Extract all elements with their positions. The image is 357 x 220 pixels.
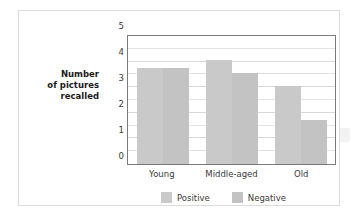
legend-item[interactable]: Positive (161, 192, 210, 203)
y-axis-title-line-2: of pictures (27, 80, 99, 91)
bar-group (266, 36, 335, 164)
bar[interactable] (232, 73, 258, 164)
y-axis-tick-label: 2 (110, 100, 124, 109)
x-axis-category-label: Old (266, 169, 336, 179)
y-axis-tick-label: 1 (110, 126, 124, 135)
y-axis-tick-label: 5 (110, 22, 124, 31)
bar[interactable] (275, 86, 301, 164)
bar-group (197, 36, 266, 164)
y-axis-tick-label: 0 (110, 152, 124, 161)
bar[interactable] (206, 60, 232, 164)
plot-wrapper: 012345 (111, 35, 336, 165)
bar[interactable] (137, 68, 163, 164)
y-axis-title-line-3: recalled (27, 91, 99, 102)
legend-item[interactable]: Negative (232, 192, 286, 203)
y-axis-title-line-1: Number (27, 69, 99, 80)
x-axis-category-label: Young (127, 169, 197, 179)
bar-group (128, 36, 197, 164)
legend-label: Positive (177, 193, 210, 203)
y-axis-title: Number of pictures recalled (27, 69, 99, 102)
y-axis-tick-label: 4 (110, 48, 124, 57)
bar[interactable] (163, 68, 189, 164)
y-axis-tick-label: 3 (110, 74, 124, 83)
legend-swatch-icon (161, 192, 172, 203)
chart-canvas: Number of pictures recalled 012345 Young… (0, 0, 357, 220)
plot-area (127, 35, 336, 165)
chart-legend: PositiveNegative (111, 192, 336, 203)
x-axis-category-labels: YoungMiddle-agedOld (127, 169, 336, 179)
bar-groups (128, 36, 335, 164)
x-axis-category-label: Middle-aged (197, 169, 267, 179)
legend-swatch-icon (232, 192, 243, 203)
legend-label: Negative (248, 193, 286, 203)
figure-frame: Number of pictures recalled 012345 Young… (18, 10, 340, 206)
bar[interactable] (301, 120, 327, 164)
